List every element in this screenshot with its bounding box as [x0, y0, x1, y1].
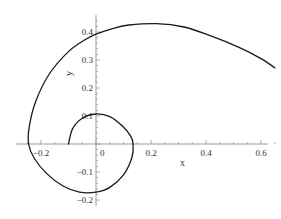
y-axis-label: y — [63, 71, 74, 76]
x-axis-label: x — [180, 157, 185, 168]
y-tick-label: 0.2 — [82, 83, 93, 93]
x-tick-label: 0.2 — [145, 148, 156, 158]
tick-labels: −0.200.20.40.6−0.2−0.10.10.20.30.4 — [33, 27, 267, 205]
x-tick-label: 0 — [100, 148, 105, 158]
x-tick-label: 0.4 — [200, 148, 212, 158]
y-tick-label: 0.3 — [82, 55, 94, 65]
x-tick-label: 0.6 — [255, 148, 267, 158]
y-tick-label: −0.2 — [77, 195, 93, 205]
spiral-curve — [28, 24, 275, 193]
x-tick-label: −0.2 — [33, 148, 49, 158]
axis-ticks — [27, 21, 275, 200]
y-tick-label: −0.1 — [77, 167, 93, 177]
spiral-chart: −0.200.20.40.6−0.2−0.10.10.20.30.4 x y — [0, 0, 281, 219]
